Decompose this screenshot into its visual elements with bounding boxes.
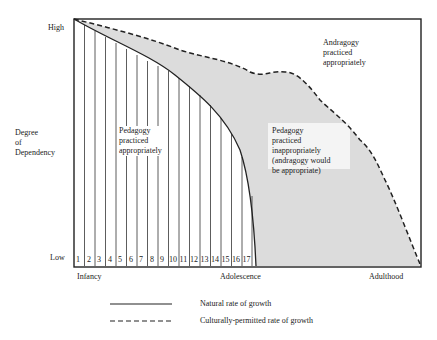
dashed-line-swatch-icon xyxy=(110,319,172,323)
stage-label-adolescence: Adolescence xyxy=(220,272,261,282)
y-axis-title-line: Dependency xyxy=(15,148,55,158)
region-label-line: practiced xyxy=(119,136,162,146)
legend-label: Culturally-permitted rate of growth xyxy=(200,316,313,325)
legend-item-natural: Natural rate of growth xyxy=(110,299,271,308)
region-label-line: appropriately xyxy=(323,58,366,68)
y-axis-low-label: Low xyxy=(50,253,65,263)
segment-number: 4 xyxy=(108,255,112,265)
segment-number: 3 xyxy=(97,255,101,265)
region-label-line: practiced xyxy=(323,48,366,58)
y-axis-high-label: High xyxy=(48,23,64,33)
region-label-pedagogy-appropriate: Pedagogy practiced appropriately xyxy=(118,126,163,156)
segment-number: 16 xyxy=(232,255,240,265)
segment-number: 6 xyxy=(129,255,133,265)
segment-number: 5 xyxy=(118,255,122,265)
legend-item-cultural: Culturally-permitted rate of growth xyxy=(110,316,313,325)
stage-label-infancy: Infancy xyxy=(77,272,101,282)
segment-number: 13 xyxy=(201,255,209,265)
region-label-andragogy-appropriate: Andragogy practiced appropriately xyxy=(323,38,366,68)
segment-number: 9 xyxy=(160,255,164,265)
segment-number: 15 xyxy=(222,255,230,265)
region-label-pedagogy-inappropriate: Pedagogy practiced inappropriately (andr… xyxy=(272,126,330,176)
y-axis-title-line: Degree xyxy=(15,128,55,138)
region-label-line: appropriately xyxy=(119,146,162,156)
region-label-line: be appropriate) xyxy=(272,166,330,176)
y-axis-title: Degree of Dependency xyxy=(15,128,55,158)
stage-label-adulthood: Adulthood xyxy=(369,272,403,282)
region-label-line: Andragogy xyxy=(323,38,366,48)
segment-number: 12 xyxy=(190,255,198,265)
segment-number: 1 xyxy=(76,255,80,265)
dependency-diagram xyxy=(0,0,437,340)
region-label-line: Pedagogy xyxy=(272,126,330,136)
region-label-line: (andragogy would xyxy=(272,156,330,166)
y-axis-title-line: of xyxy=(15,138,55,148)
solid-line-swatch-icon xyxy=(110,302,172,306)
segment-number: 11 xyxy=(180,255,188,265)
region-label-line: inappropriately xyxy=(272,146,330,156)
segment-number: 8 xyxy=(150,255,154,265)
region-label-line: practiced xyxy=(272,136,330,146)
segment-number: 10 xyxy=(169,255,177,265)
segment-number: 14 xyxy=(211,255,219,265)
legend-label: Natural rate of growth xyxy=(200,299,271,308)
region-label-line: Pedagogy xyxy=(119,126,162,136)
segment-number: 7 xyxy=(139,255,143,265)
segment-number: 17 xyxy=(243,255,251,265)
segment-number: 2 xyxy=(87,255,91,265)
